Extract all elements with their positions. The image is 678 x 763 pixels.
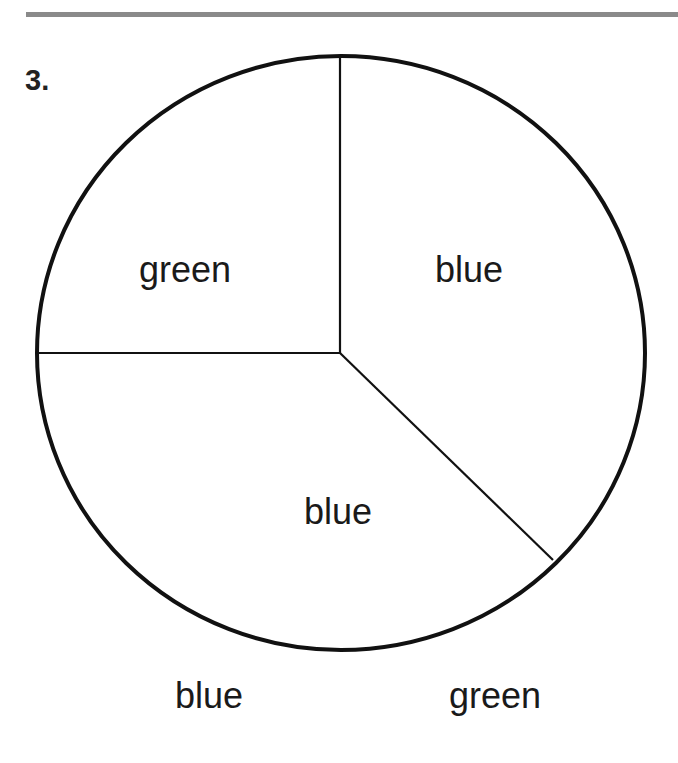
choice-blue[interactable]: blue <box>175 675 243 716</box>
spinner-diagram: green blue blue blue green <box>0 0 678 763</box>
section-label-green: green <box>139 249 231 290</box>
choice-green[interactable]: green <box>449 675 541 716</box>
section-label-blue-bottom: blue <box>304 491 372 532</box>
section-label-blue-right: blue <box>435 249 503 290</box>
